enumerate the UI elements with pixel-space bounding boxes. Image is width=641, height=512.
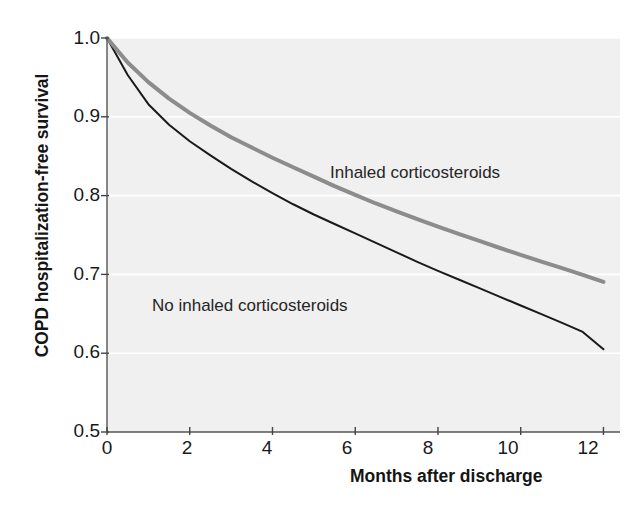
plot-background (107, 38, 620, 432)
series-label-inhaled-corticosteroids: Inhaled corticosteroids (330, 163, 500, 183)
plot-area (0, 0, 641, 512)
chart-figure: COPD hospitalization-free survival 1.0 0… (0, 0, 641, 512)
series-label-no-inhaled-corticosteroids: No inhaled corticosteroids (152, 296, 348, 316)
